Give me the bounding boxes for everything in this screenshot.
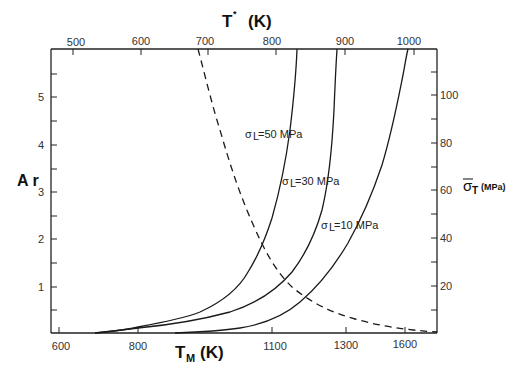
- right-axis-tick-labels: 20 40 60 80 100: [440, 89, 458, 292]
- y2-tick-label: 100: [440, 89, 458, 101]
- y-tick-label: 3: [38, 186, 44, 198]
- y2-tick-label: 60: [440, 184, 452, 196]
- x2-tick-label: 500: [67, 36, 85, 48]
- right-axis-title: σ T (MPa): [463, 177, 506, 196]
- x-tick-label: 1300: [334, 339, 358, 351]
- x-tick-label: 600: [52, 340, 70, 352]
- svg-text:T: T: [222, 12, 233, 31]
- svg-text:T: T: [472, 185, 478, 196]
- top-axis-ticks: [73, 49, 414, 55]
- curve-sigma-30: [95, 49, 337, 333]
- x2-tick-label: 900: [336, 35, 354, 47]
- svg-text:σ: σ: [245, 128, 252, 140]
- bottom-axis-ticks: [59, 327, 405, 333]
- left-axis-tick-labels: 1 2 3 4 5: [38, 91, 44, 293]
- svg-text:(MPa): (MPa): [481, 182, 506, 192]
- left-axis-ticks: [51, 74, 57, 310]
- x-tick-label: 1600: [393, 338, 417, 350]
- y2-tick-label: 40: [440, 232, 452, 244]
- svg-text:(K): (K): [248, 12, 272, 31]
- top-axis-title: T * (K): [222, 9, 272, 31]
- svg-text:(K): (K): [200, 343, 224, 362]
- curve-label-50: σ L =50 MPa: [245, 128, 303, 142]
- curve-sigma-50: [95, 49, 297, 333]
- svg-text:=30 MPa: =30 MPa: [295, 175, 340, 187]
- x-tick-label: 800: [129, 340, 147, 352]
- curve-label-10: σ L =10 MPa: [321, 219, 379, 233]
- left-axis-title: A r: [17, 172, 39, 189]
- svg-text:M: M: [186, 352, 195, 364]
- svg-text:=10 MPa: =10 MPa: [334, 219, 379, 231]
- y2-tick-label: 80: [440, 137, 452, 149]
- x2-tick-label: 1000: [397, 35, 421, 47]
- x-tick-label: 1100: [263, 340, 287, 352]
- y-tick-label: 2: [38, 233, 44, 245]
- x2-tick-label: 600: [132, 35, 150, 47]
- plot-frame: [51, 49, 437, 333]
- y-tick-label: 5: [38, 91, 44, 103]
- bottom-axis-tick-labels: 600 800 1100 1300 1600: [52, 338, 417, 352]
- chart-canvas: 1 2 3 4 5 20 40 60 80 100 600 800 1100: [0, 0, 522, 373]
- svg-text:σ: σ: [321, 219, 328, 231]
- bottom-axis-title: T M (K): [175, 343, 224, 364]
- curve-sigma-10: [175, 49, 408, 333]
- svg-text:*: *: [233, 9, 237, 19]
- x2-tick-label: 700: [196, 35, 214, 47]
- curves: [95, 49, 437, 333]
- x2-tick-label: 800: [263, 35, 281, 47]
- y2-tick-label: 20: [440, 280, 452, 292]
- curve-label-30: σ L =30 MPa: [282, 175, 340, 189]
- top-axis-tick-labels: 500 600 700 800 900 1000: [67, 35, 421, 48]
- y-tick-label: 1: [38, 281, 44, 293]
- svg-text:σ: σ: [282, 175, 289, 187]
- right-axis-ticks: [431, 72, 437, 310]
- svg-text:T: T: [175, 343, 186, 362]
- y-tick-label: 4: [38, 139, 44, 151]
- svg-text:=50 MPa: =50 MPa: [258, 128, 303, 140]
